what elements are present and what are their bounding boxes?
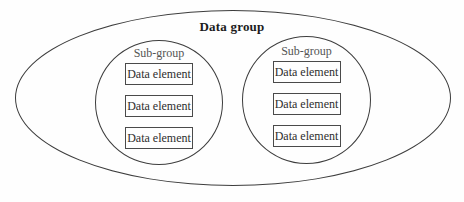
data-element-box: Data element bbox=[273, 125, 341, 147]
data-element-box: Data element bbox=[125, 95, 193, 117]
data-element-box: Data element bbox=[125, 127, 193, 149]
data-group-ellipse bbox=[15, 10, 451, 186]
data-group-label: Data group bbox=[0, 19, 464, 35]
subgroup-label-left: Sub-group bbox=[134, 46, 185, 60]
subgroup-circle-left: Sub-group Data element Data element Data… bbox=[95, 40, 223, 165]
data-element-box: Data element bbox=[273, 61, 341, 83]
data-element-box: Data element bbox=[125, 63, 193, 85]
diagram-canvas: Data group Sub-group Data element Data e… bbox=[0, 0, 464, 202]
subgroup-circle-right: Sub-group Data element Data element Data… bbox=[242, 36, 371, 164]
data-element-box: Data element bbox=[273, 93, 341, 115]
subgroup-label-right: Sub-group bbox=[281, 44, 332, 58]
